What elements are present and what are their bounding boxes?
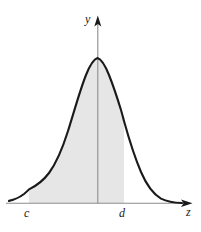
y-axis-label: y: [85, 13, 90, 25]
x-axis-label: z: [186, 206, 191, 218]
upper-bound-label-d: d: [119, 207, 125, 219]
normal-distribution-figure: y c d z: [0, 0, 201, 232]
lower-bound-label-c: c: [24, 207, 29, 219]
plot-canvas: [0, 0, 201, 232]
